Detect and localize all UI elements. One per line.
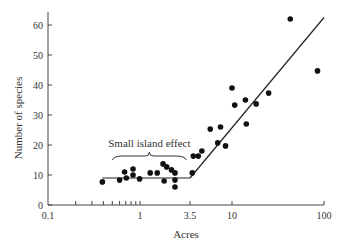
data-point (189, 170, 195, 176)
x-tick-label: 1 (138, 210, 143, 221)
data-point (229, 85, 235, 91)
data-point (122, 169, 128, 175)
data-point (315, 68, 321, 74)
annotation: Small island effect (108, 137, 190, 160)
data-point (287, 16, 293, 22)
data-point (154, 170, 160, 176)
y-tick-label: 50 (33, 50, 43, 61)
data-point (195, 153, 201, 159)
data-point (124, 175, 130, 181)
data-point (147, 170, 153, 176)
y-tick-label: 20 (33, 140, 43, 151)
y-axis-label: Number of species (12, 77, 24, 159)
data-point (215, 140, 221, 146)
data-point (172, 177, 178, 183)
data-point (130, 172, 136, 178)
y-tick-label: 30 (33, 110, 43, 121)
data-point (232, 102, 238, 108)
data-point (130, 166, 136, 172)
y-tick-label: 10 (33, 170, 43, 181)
data-point (191, 153, 197, 159)
data-point (243, 97, 249, 103)
brace (112, 152, 186, 160)
data-point (161, 178, 167, 184)
axis-ticks: 01020304050600.113.510100 (33, 20, 332, 221)
data-point (243, 121, 249, 127)
data-point (199, 148, 205, 154)
data-point (223, 143, 229, 149)
data-point (266, 90, 272, 96)
regression-line (102, 18, 324, 179)
fit-segment (190, 18, 324, 179)
data-point (137, 176, 143, 182)
data-point (172, 184, 178, 190)
axes (48, 12, 324, 205)
data-point (218, 124, 224, 130)
x-tick-label: 10 (227, 210, 237, 221)
x-tick-label: 3.5 (184, 210, 197, 221)
annotation-label: Small island effect (108, 137, 190, 149)
data-point (172, 170, 178, 176)
data-points (100, 16, 321, 190)
data-point (117, 177, 123, 183)
data-point (164, 164, 170, 170)
data-point (253, 101, 259, 107)
data-point (100, 179, 106, 185)
y-tick-label: 40 (33, 80, 43, 91)
x-tick-label: 100 (317, 210, 332, 221)
species-area-chart: 01020304050600.113.510100 Small island e… (0, 0, 346, 244)
data-point (207, 126, 213, 132)
y-tick-label: 60 (33, 20, 43, 31)
x-tick-label: 0.1 (42, 210, 55, 221)
x-axis-label: Acres (173, 228, 199, 240)
